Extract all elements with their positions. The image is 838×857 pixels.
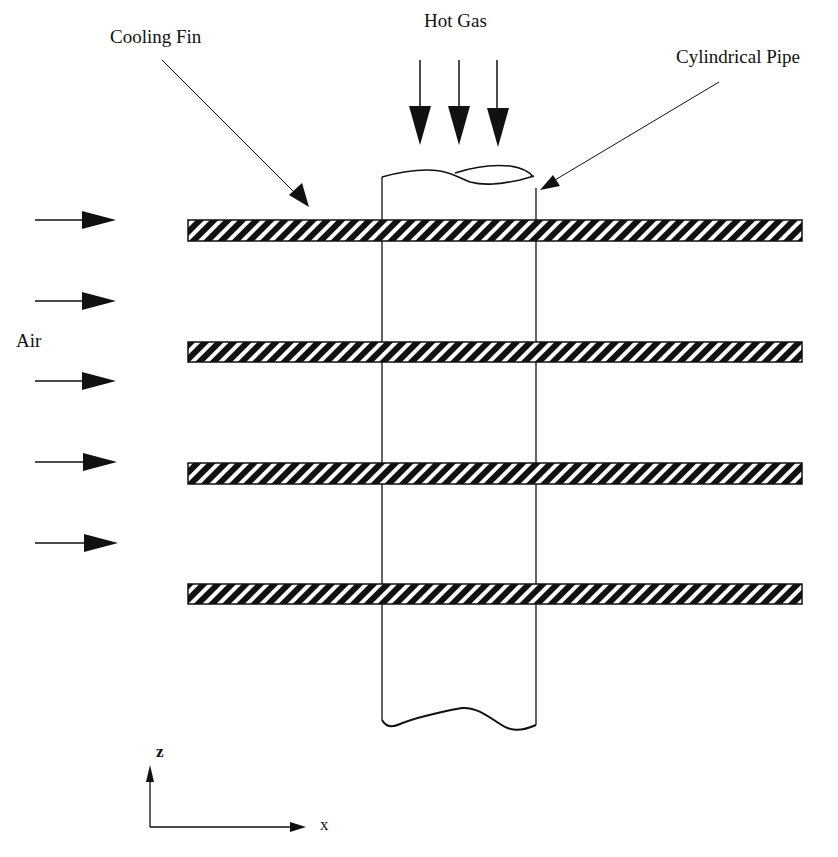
air-arrows xyxy=(35,211,118,552)
cooling-fin-3 xyxy=(188,463,802,484)
cooling-fin-1 xyxy=(188,220,802,241)
hot-gas-arrows xyxy=(409,60,509,147)
air-label: Air xyxy=(16,330,41,352)
cylindrical-pipe xyxy=(382,165,536,729)
pipe-leader xyxy=(540,82,719,190)
cooling-fins xyxy=(188,220,802,604)
fin-pipe-diagram xyxy=(0,0,838,857)
axis-z-label: z xyxy=(156,742,164,762)
cooling-fin-2 xyxy=(188,342,802,362)
cylindrical-pipe-label: Cylindrical Pipe xyxy=(676,46,800,68)
hot-gas-label: Hot Gas xyxy=(424,10,487,32)
cooling-fin-label: Cooling Fin xyxy=(110,26,201,48)
cooling-fin-4 xyxy=(188,584,802,604)
coordinate-axes xyxy=(146,765,306,832)
axis-x-label: x xyxy=(320,815,329,835)
cooling-fin-leader xyxy=(162,60,309,207)
